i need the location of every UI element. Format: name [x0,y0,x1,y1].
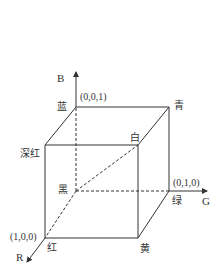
vertex-blue-label: 蓝 [57,102,67,112]
edge-blue-magenta [45,107,76,145]
green-coordinate: (0,1,0) [173,178,200,188]
vertex-yellow-label: 黄 [140,244,150,254]
red-coordinate: (1,0,0) [10,232,37,242]
vertex-black-label: 黑 [58,185,68,195]
edge-green-yellow [138,191,169,238]
vertex-green-label: 绿 [172,196,182,206]
edge-cyan-white [138,107,169,145]
r-axis-label: R [16,252,23,262]
vertex-red-label: 红 [47,243,57,253]
vertex-magenta-label: 深红 [20,149,40,159]
vertex-white-label: 白 [130,133,140,143]
g-axis-label: G [202,196,210,206]
b-axis-label: B [57,73,64,83]
blue-coordinate: (0,0,1) [80,92,107,102]
diagonal-black-white [76,145,138,191]
vertex-cyan-label: 青 [174,101,184,111]
hidden-edge-black-red [45,191,76,238]
